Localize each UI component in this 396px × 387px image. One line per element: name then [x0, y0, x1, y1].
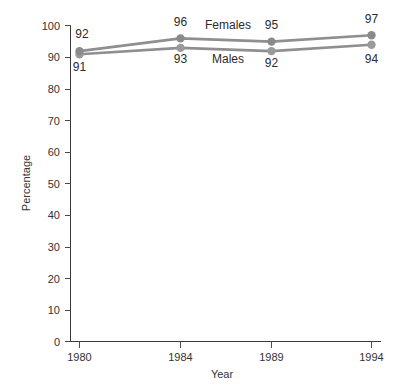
x-tick-label-1980: 1980 [67, 351, 91, 363]
x-axis-ticks: 1980 1984 1989 1994 [67, 342, 383, 364]
x-tick-label-1994: 1994 [359, 351, 383, 363]
data-point-males-1984 [176, 44, 184, 52]
y-tick-label-30: 30 [48, 241, 60, 253]
data-point-males-1994 [367, 41, 375, 49]
y-tick-label-10: 10 [48, 304, 60, 316]
data-point-females-1980 [75, 47, 83, 55]
value-label-females-1989: 95 [265, 18, 279, 32]
value-label-males-1984: 93 [174, 52, 188, 66]
x-axis-title: Year [211, 368, 234, 380]
x-tick-label-1984: 1984 [168, 351, 192, 363]
y-tick-label-80: 80 [48, 83, 60, 95]
y-tick-label-90: 90 [48, 51, 60, 63]
y-tick-label-100: 100 [42, 20, 60, 32]
value-label-males-1980: 91 [73, 60, 87, 74]
value-label-females-1994: 97 [365, 12, 379, 26]
value-label-females-1984: 96 [174, 15, 188, 29]
data-point-females-1994 [367, 31, 375, 39]
value-label-males-1989: 92 [265, 56, 279, 70]
y-tick-label-40: 40 [48, 209, 60, 221]
x-tick-label-1989: 1989 [259, 351, 283, 363]
series-annotation-females: Females [205, 18, 251, 32]
series-annotation-males: Males [212, 52, 244, 66]
y-tick-label-60: 60 [48, 146, 60, 158]
y-tick-label-50: 50 [48, 178, 60, 190]
data-point-males-1989 [267, 47, 275, 55]
value-label-females-1980: 92 [75, 27, 89, 41]
y-axis-ticks: 0 10 20 30 40 50 60 70 80 90 100 [42, 20, 71, 348]
y-axis-title: Percentage [20, 155, 32, 211]
value-label-males-1994: 94 [365, 52, 379, 66]
y-tick-label-70: 70 [48, 115, 60, 127]
line-chart: Percentage 0 10 20 30 40 50 60 70 80 [0, 0, 396, 387]
data-point-females-1984 [176, 34, 184, 42]
chart-canvas: Percentage 0 10 20 30 40 50 60 70 80 [0, 0, 396, 387]
y-tick-label-20: 20 [48, 273, 60, 285]
y-tick-label-0: 0 [54, 336, 60, 348]
data-point-females-1989 [267, 37, 275, 45]
